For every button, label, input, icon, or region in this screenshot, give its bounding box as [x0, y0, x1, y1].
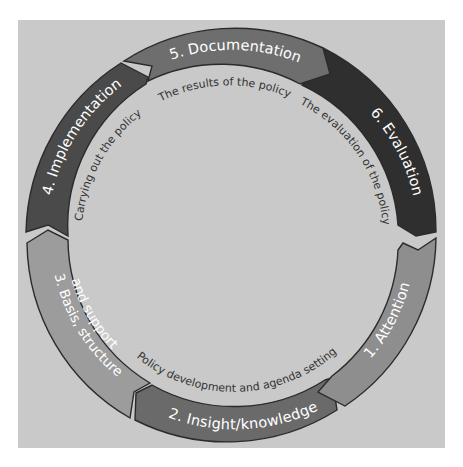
policy-cycle-diagram: 5. Documentation 6. Evaluation 1. Attent… — [0, 0, 463, 467]
